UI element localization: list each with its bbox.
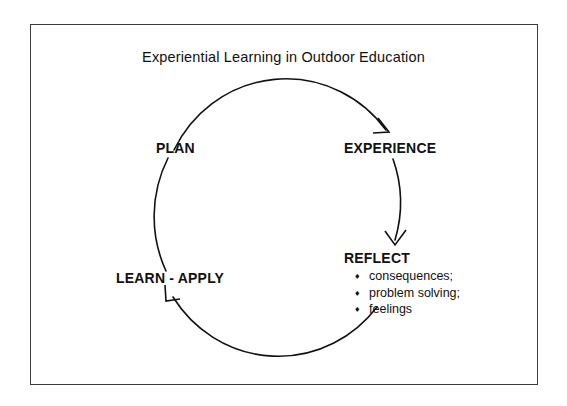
cycle-node-reflect-group: REFLECT ♦ consequences; ♦ problem solvin… [344, 250, 504, 318]
cycle-node-plan: PLAN [156, 140, 195, 156]
list-item-label: consequences; [369, 269, 453, 283]
cycle-node-learn-apply: LEARN - APPLY [116, 270, 224, 286]
cycle-node-experience: EXPERIENCE [344, 140, 436, 156]
list-item-label: problem solving; [369, 286, 460, 300]
figure-border [30, 24, 538, 385]
list-item: ♦ feelings [355, 301, 504, 318]
figure-canvas: Experiential Learning in Outdoor Educati… [0, 0, 567, 406]
diamond-bullet-icon: ♦ [355, 285, 360, 302]
list-item-label: feelings [369, 302, 412, 316]
diamond-bullet-icon: ♦ [355, 301, 360, 318]
diamond-bullet-icon: ♦ [355, 268, 360, 285]
page-title: Experiential Learning in Outdoor Educati… [0, 49, 567, 65]
reflect-detail-list: ♦ consequences; ♦ problem solving; ♦ fee… [344, 268, 504, 318]
list-item: ♦ problem solving; [355, 285, 504, 302]
cycle-node-reflect: REFLECT [344, 250, 504, 266]
list-item: ♦ consequences; [355, 268, 504, 285]
